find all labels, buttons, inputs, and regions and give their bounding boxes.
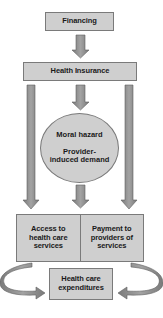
node-split-box: Access to health care services Payment t…: [16, 214, 144, 262]
node-health-insurance-label: Health Insurance: [51, 67, 110, 76]
curved-arrow-right: [118, 263, 163, 299]
arrow-insurance-to-payment: [121, 85, 137, 209]
arrow-ellipse-to-split: [72, 185, 89, 208]
node-access-label: Access to health care services: [22, 225, 74, 251]
node-access: Access to health care services: [17, 215, 80, 261]
node-payment-label: Payment to providers of services: [84, 225, 140, 251]
node-expenditures-label: Health care expenditures: [55, 275, 107, 292]
node-payment: Payment to providers of services: [81, 215, 144, 261]
node-moral-hazard-ellipse: Moral hazard Provider-induced demand: [40, 113, 119, 183]
arrow-insurance-to-ellipse: [72, 85, 89, 110]
node-health-insurance: Health Insurance: [23, 62, 137, 81]
node-financing: Financing: [45, 12, 114, 31]
provider-induced-demand-label: Provider-induced demand: [50, 148, 110, 165]
curved-arrow-left: [0, 263, 45, 299]
moral-hazard-label: Moral hazard: [56, 131, 102, 140]
node-financing-label: Financing: [62, 17, 97, 26]
arrow-financing-to-insurance: [72, 35, 89, 58]
node-expenditures: Health care expenditures: [49, 268, 113, 300]
arrow-insurance-to-access: [23, 85, 39, 209]
